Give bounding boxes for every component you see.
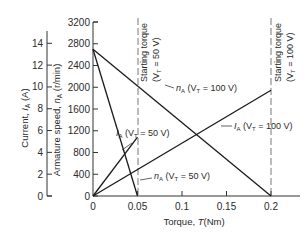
starting-torque-100v-label: Starting torque <box>273 23 283 82</box>
speed-tick-label: 3200 <box>68 17 91 28</box>
current-tick-label: 8 <box>37 103 43 114</box>
x-tick-label: 0.2 <box>264 201 278 212</box>
speed-tick-label: 1200 <box>68 125 91 136</box>
x-tick-label: 0 <box>90 201 96 212</box>
current-tick-label: 4 <box>37 147 43 158</box>
current-tick-label: 14 <box>32 38 44 49</box>
speed-tick-label: 0 <box>84 191 90 202</box>
x-tick-label: 0.15 <box>217 201 237 212</box>
label-IA-100v: IA (VT = 100 V) <box>221 121 293 132</box>
current-tick-label: 12 <box>32 60 44 71</box>
speed-axis-title: Armature speed, nA (r/min) <box>51 64 63 177</box>
current-tick-label: 10 <box>32 81 44 92</box>
speed-tick-label: 800 <box>73 147 90 158</box>
svg-text:IA (VT = 50 V): IA (VT = 50 V) <box>116 128 170 139</box>
svg-text:nA (VT = 100 V): nA (VT = 100 V) <box>176 83 237 94</box>
svg-text:IA (VT = 100 V): IA (VT = 100 V) <box>234 121 293 132</box>
current-tick-label: 0 <box>37 191 43 202</box>
label-nA-100v: nA (VT = 100 V) <box>165 83 237 94</box>
label-nA-50v: nA (VT = 50 V) <box>140 171 210 182</box>
label-IA-50v: IA (VT = 50 V) <box>116 128 170 150</box>
series-line <box>93 137 138 196</box>
x-tick-label: 0.1 <box>175 201 189 212</box>
current-axis-title: Current, IA (A) <box>19 88 31 147</box>
speed-tick-label: 2800 <box>68 38 91 49</box>
speed-tick-label: 400 <box>73 169 90 180</box>
current-axis: 02468101214 <box>32 31 52 202</box>
speed-axis: 0400800120016002000240028003200 <box>68 17 98 202</box>
speed-tick-label: 1600 <box>68 104 91 115</box>
starting-torque-50v-voltage: (VT = 50 V) <box>151 38 162 82</box>
current-tick-label: 6 <box>37 125 43 136</box>
torque-speed-chart: 02468101214 0400800120016002000240028003… <box>0 0 308 234</box>
starting-torque-50v-label: Starting torque <box>139 23 149 82</box>
x-axis-title: Torque, T(Nm) <box>163 216 224 227</box>
starting-torque-100v-voltage: (VT = 100 V) <box>285 33 296 82</box>
svg-text:nA (VT = 50 V): nA (VT = 50 V) <box>154 171 210 182</box>
speed-tick-label: 2000 <box>68 82 91 93</box>
current-tick-label: 2 <box>37 169 43 180</box>
speed-tick-label: 2400 <box>68 60 91 71</box>
x-tick-label: 0.05 <box>128 201 148 212</box>
